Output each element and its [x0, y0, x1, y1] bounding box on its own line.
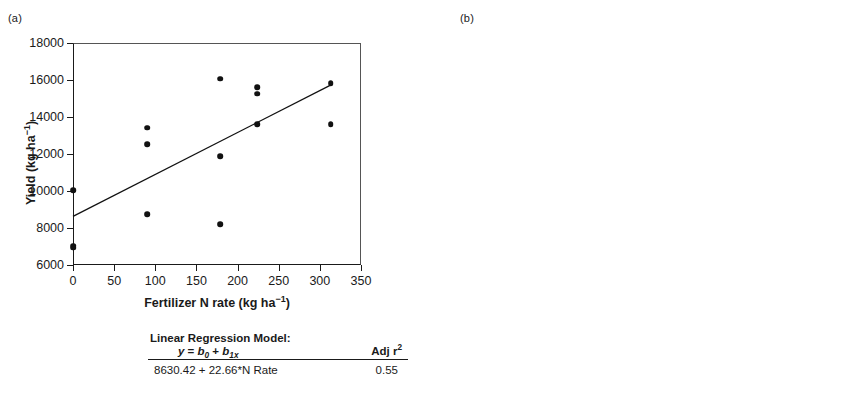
x-tick — [73, 265, 74, 271]
panel-a-adj-r2-value: 0.55 — [376, 364, 398, 376]
x-tick — [238, 265, 239, 271]
panel-a-adj-r2-header: Adj r2 — [371, 345, 402, 357]
panel-a-model-equation-value: 8630.42 + 22.66*N Rate — [154, 364, 278, 376]
panel-a: (a) 600080001000012000140001600018000050… — [0, 0, 423, 411]
x-tick — [320, 265, 321, 271]
x-tick-label: 0 — [70, 274, 77, 288]
panel-a-model-equation-header: y = b0 + b1x — [178, 345, 239, 357]
x-tick — [196, 265, 197, 271]
x-tick — [114, 265, 115, 271]
y-tick-label: 16000 — [29, 73, 64, 87]
panel-a-model-table: Linear Regression Model: y = b0 + b1x Ad… — [148, 332, 408, 376]
panel-a-model-header: y = b0 + b1x Adj r2 — [148, 344, 408, 360]
x-tick — [361, 265, 362, 271]
panel-a-yaxis-title: Yield (kg ha−1) — [24, 121, 38, 205]
x-tick-label: 300 — [309, 274, 330, 288]
panel-a-xaxis-title: Fertilizer N rate (kg ha−1) — [144, 296, 290, 310]
x-tick-label: 100 — [145, 274, 166, 288]
x-tick — [155, 265, 156, 271]
panel-a-tag: (a) — [8, 12, 22, 24]
x-tick-label: 200 — [227, 274, 248, 288]
x-tick-label: 250 — [268, 274, 289, 288]
panel-a-model-row: 8630.42 + 22.66*N Rate 0.55 — [148, 360, 408, 376]
panel-a-plot-area: 6000800010000120001400016000180000501001… — [73, 43, 361, 265]
x-tick-label: 150 — [186, 274, 207, 288]
y-tick-label: 18000 — [29, 36, 64, 50]
panel-b-tag: (b) — [460, 12, 474, 24]
y-tick-label: 8000 — [36, 221, 64, 235]
y-tick-label: 6000 — [36, 258, 64, 272]
figure-container: (a) 600080001000012000140001600018000050… — [0, 0, 847, 411]
panel-b: (b) 0.200.220.240.260.280.300.320.340.36… — [424, 0, 847, 411]
x-tick-label: 50 — [107, 274, 121, 288]
x-tick-label: 350 — [351, 274, 372, 288]
panel-a-model-title: Linear Regression Model: — [148, 332, 408, 344]
x-tick — [279, 265, 280, 271]
panel-a-regression-line — [73, 43, 361, 265]
